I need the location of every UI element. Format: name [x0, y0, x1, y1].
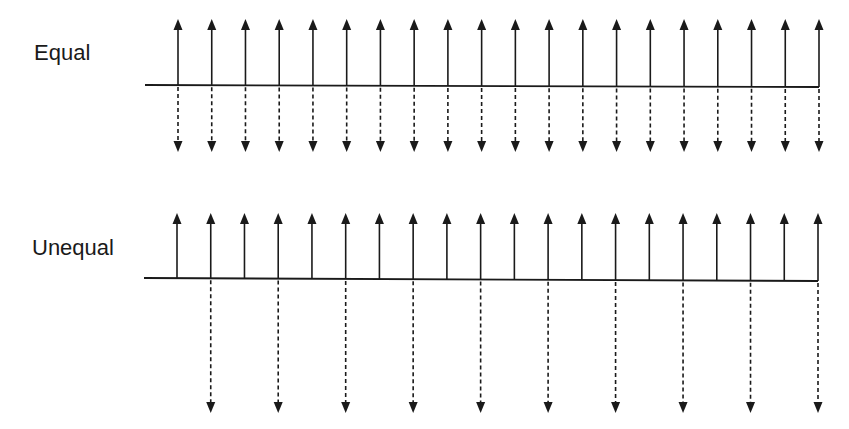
up-arrow-icon	[781, 19, 790, 87]
up-arrow-icon	[713, 19, 722, 87]
up-arrow-icon	[410, 19, 419, 86]
up-arrow-icon	[341, 213, 350, 279]
up-arrow-icon	[173, 213, 182, 278]
up-arrow-icon	[443, 19, 452, 86]
down-arrow-icon	[207, 87, 216, 152]
down-arrow-icon	[612, 88, 621, 152]
up-arrow-icon	[207, 19, 216, 85]
up-arrow-icon	[307, 213, 316, 279]
down-arrow-icon	[746, 283, 755, 413]
down-arrow-icon	[241, 87, 250, 152]
down-arrow-icon	[376, 88, 385, 152]
up-arrow-icon	[712, 213, 721, 281]
up-arrow-icon	[646, 19, 655, 86]
down-arrow-icon	[611, 282, 620, 413]
equal-panel	[145, 19, 824, 152]
up-arrow-icon	[241, 19, 250, 85]
up-arrow-icon	[578, 19, 587, 86]
down-arrow-icon	[275, 87, 284, 152]
down-arrow-icon	[544, 282, 553, 413]
up-arrow-icon	[206, 213, 215, 278]
down-arrow-icon	[341, 281, 350, 413]
up-arrow-icon	[342, 19, 351, 86]
up-arrow-icon	[510, 213, 519, 280]
up-arrow-icon	[545, 19, 554, 86]
down-arrow-icon	[680, 89, 689, 152]
up-arrow-icon	[442, 213, 451, 279]
up-arrow-icon	[611, 213, 620, 280]
unequal-panel	[144, 213, 823, 413]
down-arrow-icon	[713, 89, 722, 152]
down-arrow-icon	[308, 87, 317, 152]
up-arrow-icon	[274, 213, 283, 279]
down-arrow-icon	[274, 281, 283, 413]
down-arrow-icon	[511, 88, 520, 152]
up-arrow-icon	[815, 19, 824, 87]
up-arrow-icon	[814, 213, 823, 281]
down-arrow-icon	[545, 88, 554, 152]
down-arrow-icon	[815, 89, 824, 152]
up-arrow-icon	[679, 213, 688, 280]
down-arrow-icon	[443, 88, 452, 152]
down-arrow-icon	[409, 281, 418, 413]
up-arrow-icon	[544, 213, 553, 280]
up-arrow-icon	[409, 213, 418, 279]
down-arrow-icon	[679, 282, 688, 413]
up-arrow-icon	[746, 213, 755, 281]
up-arrow-icon	[376, 19, 385, 86]
down-arrow-icon	[342, 88, 351, 152]
up-arrow-icon	[577, 213, 586, 280]
up-arrow-icon	[645, 213, 654, 280]
down-arrow-icon	[410, 88, 419, 152]
down-arrow-icon	[814, 283, 823, 413]
up-arrow-icon	[240, 213, 249, 278]
up-arrow-icon	[680, 19, 689, 87]
down-arrow-icon	[578, 88, 587, 152]
up-arrow-icon	[174, 19, 183, 85]
up-arrow-icon	[308, 19, 317, 85]
up-arrow-icon	[511, 19, 520, 86]
down-arrow-icon	[206, 280, 215, 413]
up-arrow-icon	[375, 213, 384, 279]
down-arrow-icon	[476, 281, 485, 413]
up-arrow-icon	[612, 19, 621, 86]
up-arrow-icon	[780, 213, 789, 281]
down-arrow-icon	[174, 87, 183, 152]
up-arrow-icon	[476, 213, 485, 279]
up-arrow-icon	[747, 19, 756, 87]
up-arrow-icon	[477, 19, 486, 86]
down-arrow-icon	[646, 88, 655, 152]
down-arrow-icon	[781, 89, 790, 152]
up-arrow-icon	[275, 19, 284, 85]
arrow-diagram	[0, 0, 849, 429]
down-arrow-icon	[477, 88, 486, 152]
down-arrow-icon	[747, 89, 756, 152]
